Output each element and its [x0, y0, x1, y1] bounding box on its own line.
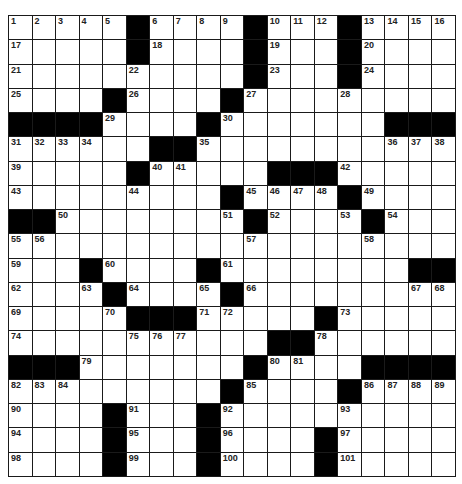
crossword-cell[interactable]: 77 — [174, 331, 197, 354]
crossword-cell[interactable] — [80, 428, 103, 451]
crossword-cell[interactable] — [291, 210, 314, 233]
crossword-cell[interactable] — [103, 356, 126, 379]
crossword-cell[interactable]: 32 — [33, 137, 56, 160]
crossword-cell[interactable] — [221, 331, 244, 354]
crossword-cell[interactable]: 95 — [127, 428, 150, 451]
crossword-cell[interactable] — [362, 307, 385, 330]
crossword-cell[interactable]: 11 — [291, 16, 314, 39]
crossword-cell[interactable] — [362, 162, 385, 185]
crossword-cell[interactable]: 63 — [80, 283, 103, 306]
crossword-cell[interactable] — [197, 331, 220, 354]
crossword-cell[interactable] — [33, 404, 56, 427]
crossword-cell[interactable]: 55 — [9, 234, 32, 257]
crossword-cell[interactable] — [432, 186, 455, 209]
crossword-cell[interactable] — [80, 380, 103, 403]
crossword-cell[interactable] — [33, 453, 56, 476]
crossword-cell[interactable] — [291, 404, 314, 427]
crossword-cell[interactable] — [338, 356, 361, 379]
crossword-cell[interactable] — [33, 40, 56, 63]
crossword-cell[interactable]: 31 — [9, 137, 32, 160]
crossword-cell[interactable] — [385, 40, 408, 63]
crossword-cell[interactable] — [174, 65, 197, 88]
crossword-cell[interactable] — [56, 404, 79, 427]
crossword-cell[interactable]: 17 — [9, 40, 32, 63]
crossword-cell[interactable]: 71 — [197, 307, 220, 330]
crossword-cell[interactable] — [150, 404, 173, 427]
crossword-cell[interactable] — [315, 380, 338, 403]
crossword-cell[interactable]: 6 — [150, 16, 173, 39]
crossword-cell[interactable]: 42 — [338, 162, 361, 185]
crossword-cell[interactable] — [315, 283, 338, 306]
crossword-cell[interactable]: 88 — [409, 380, 432, 403]
crossword-cell[interactable] — [33, 259, 56, 282]
crossword-cell[interactable]: 86 — [362, 380, 385, 403]
crossword-cell[interactable] — [103, 210, 126, 233]
crossword-cell[interactable] — [409, 162, 432, 185]
crossword-cell[interactable] — [362, 453, 385, 476]
crossword-cell[interactable] — [174, 428, 197, 451]
crossword-cell[interactable] — [127, 234, 150, 257]
crossword-cell[interactable] — [80, 234, 103, 257]
crossword-cell[interactable] — [291, 453, 314, 476]
crossword-cell[interactable] — [80, 210, 103, 233]
crossword-cell[interactable]: 91 — [127, 404, 150, 427]
crossword-cell[interactable] — [268, 137, 291, 160]
crossword-cell[interactable] — [409, 65, 432, 88]
crossword-cell[interactable]: 79 — [80, 356, 103, 379]
crossword-cell[interactable]: 52 — [268, 210, 291, 233]
crossword-cell[interactable]: 4 — [80, 16, 103, 39]
crossword-cell[interactable]: 36 — [385, 137, 408, 160]
crossword-cell[interactable] — [409, 453, 432, 476]
crossword-cell[interactable]: 82 — [9, 380, 32, 403]
crossword-cell[interactable] — [103, 137, 126, 160]
crossword-cell[interactable] — [338, 137, 361, 160]
crossword-cell[interactable] — [244, 113, 267, 136]
crossword-cell[interactable] — [362, 428, 385, 451]
crossword-cell[interactable] — [291, 259, 314, 282]
crossword-cell[interactable]: 47 — [291, 186, 314, 209]
crossword-cell[interactable] — [268, 259, 291, 282]
crossword-cell[interactable]: 20 — [362, 40, 385, 63]
crossword-cell[interactable] — [315, 404, 338, 427]
crossword-cell[interactable]: 27 — [244, 89, 267, 112]
crossword-cell[interactable] — [174, 210, 197, 233]
crossword-cell[interactable] — [174, 404, 197, 427]
crossword-cell[interactable]: 83 — [33, 380, 56, 403]
crossword-cell[interactable] — [33, 186, 56, 209]
crossword-cell[interactable] — [56, 89, 79, 112]
crossword-cell[interactable] — [362, 331, 385, 354]
crossword-cell[interactable] — [409, 428, 432, 451]
crossword-cell[interactable] — [127, 137, 150, 160]
crossword-cell[interactable] — [291, 307, 314, 330]
crossword-cell[interactable]: 61 — [221, 259, 244, 282]
crossword-cell[interactable]: 57 — [244, 234, 267, 257]
crossword-cell[interactable] — [33, 283, 56, 306]
crossword-cell[interactable] — [268, 283, 291, 306]
crossword-cell[interactable]: 39 — [9, 162, 32, 185]
crossword-cell[interactable]: 67 — [409, 283, 432, 306]
crossword-cell[interactable] — [315, 356, 338, 379]
crossword-cell[interactable] — [103, 186, 126, 209]
crossword-cell[interactable] — [268, 428, 291, 451]
crossword-cell[interactable]: 24 — [362, 65, 385, 88]
crossword-cell[interactable]: 68 — [432, 283, 455, 306]
crossword-cell[interactable] — [56, 65, 79, 88]
crossword-cell[interactable]: 51 — [221, 210, 244, 233]
crossword-cell[interactable] — [432, 210, 455, 233]
crossword-cell[interactable] — [33, 162, 56, 185]
crossword-cell[interactable] — [385, 331, 408, 354]
crossword-cell[interactable]: 40 — [150, 162, 173, 185]
crossword-cell[interactable] — [103, 331, 126, 354]
crossword-cell[interactable] — [174, 40, 197, 63]
crossword-cell[interactable] — [80, 89, 103, 112]
crossword-cell[interactable] — [127, 380, 150, 403]
crossword-cell[interactable] — [80, 331, 103, 354]
crossword-cell[interactable] — [409, 210, 432, 233]
crossword-cell[interactable] — [103, 40, 126, 63]
crossword-cell[interactable] — [56, 307, 79, 330]
crossword-cell[interactable] — [80, 40, 103, 63]
crossword-cell[interactable] — [432, 331, 455, 354]
crossword-cell[interactable] — [80, 307, 103, 330]
crossword-cell[interactable] — [338, 234, 361, 257]
crossword-cell[interactable]: 73 — [338, 307, 361, 330]
